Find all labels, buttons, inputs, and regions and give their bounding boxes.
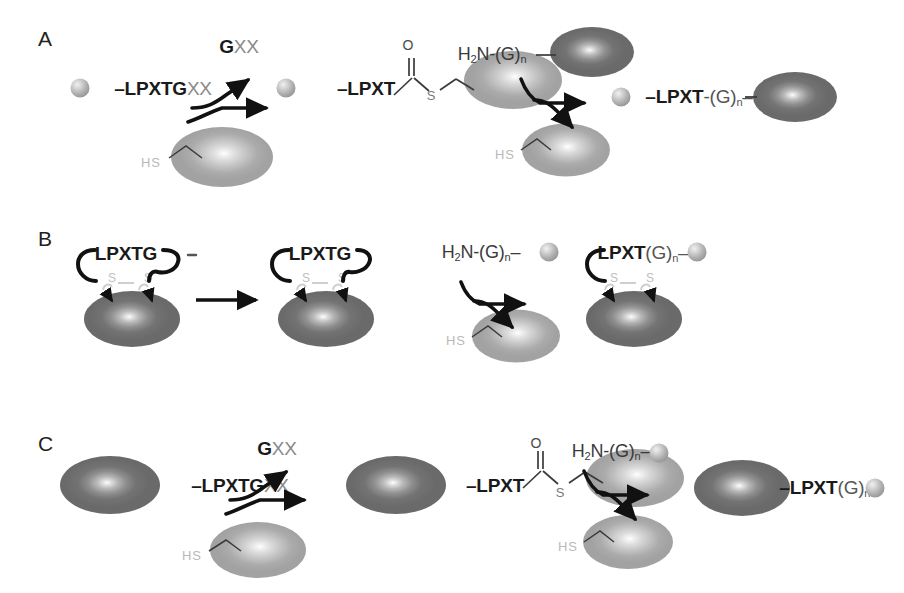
panel-b-label: B xyxy=(38,227,52,251)
panel-a-released-peptide-label: GXX xyxy=(219,37,259,56)
panel-a-substrate-sequence: –LPXTGXX xyxy=(114,79,212,98)
panel-a-substrate-sphere xyxy=(71,79,90,98)
panel-c-acyl-protein xyxy=(346,456,446,514)
panel-a-product-sphere xyxy=(612,88,631,107)
panel-a-thioester-sulfur-1: S xyxy=(427,89,436,102)
panel-a-acyl-sequence: –LPXT xyxy=(337,79,395,98)
panel-b-sortase-enzyme-3 xyxy=(472,310,560,363)
panel-b-product-sphere xyxy=(688,243,707,262)
panel-c-label: C xyxy=(38,432,53,456)
panel-c-nucleophile-sphere xyxy=(650,444,669,463)
panel-a-carbonyl-oxygen-1: O xyxy=(403,38,414,52)
panel-c-hs-label-2: HS xyxy=(558,540,578,553)
panel-b-disulfide-sulfur-left-1: S xyxy=(108,272,116,284)
panel-c-sortase-enzyme-2 xyxy=(583,515,673,569)
panel-a-sortase-enzyme-2 xyxy=(522,124,610,177)
panel-c-substrate-protein xyxy=(60,456,160,514)
panel-b-sortase-enzyme-1 xyxy=(84,291,180,347)
panel-a-hs-label-1: HS xyxy=(141,156,161,169)
panel-b-disulfide-sulfur-right-3: S xyxy=(646,272,654,284)
panel-b-disulfide-sulfur-right-1: S xyxy=(144,272,152,284)
panel-a-hs-label-2: HS xyxy=(495,148,515,161)
panel-c-product-protein xyxy=(694,460,790,516)
panel-c: C –LPXTGXX GXX HS –LPXT O S H2N-(G)n– HS… xyxy=(0,410,904,593)
panel-a-label: A xyxy=(38,27,52,51)
panel-c-released-peptide-label: GXX xyxy=(257,439,297,458)
panel-a-product-protein xyxy=(753,72,837,122)
panel-b-substrate-sequence: LPXTG xyxy=(95,244,157,263)
panel-b-sortase-enzyme-4 xyxy=(586,291,682,347)
panel-b: B LPXTG S S LPXTG S S H2N-(G)n– HS LPXT(… xyxy=(0,205,904,410)
panel-a-acyl-sphere xyxy=(277,79,296,98)
panel-b-nucleophile-label: H2N-(G)n– xyxy=(442,243,520,263)
panel-b-nucleophile-sphere xyxy=(540,243,559,262)
panel-c-substrate-sequence: –LPXTGXX xyxy=(191,476,289,495)
panel-c-hs-label-1: HS xyxy=(182,549,202,562)
sortase-reaction-figure: A –LPXTGXX GXX HS –LPXT O S H2N-(G)n HS … xyxy=(0,0,904,593)
panel-a: A –LPXTGXX GXX HS –LPXT O S H2N-(G)n HS … xyxy=(0,0,904,205)
panel-c-product-sphere xyxy=(866,479,885,498)
panel-b-intermediate-sequence: LPXTG xyxy=(289,244,351,263)
panel-c-nucleophile-label: H2N-(G)n– xyxy=(572,442,650,462)
panel-b-disulfide-sulfur-left-2: S xyxy=(302,272,310,284)
panel-a-nucleophile-label: H2N-(G)n xyxy=(458,45,527,65)
panel-b-hs-label: HS xyxy=(446,334,466,347)
panel-c-acyl-sequence: –LPXT xyxy=(466,476,524,495)
panel-a-incoming-protein xyxy=(550,27,634,77)
panel-b-sortase-enzyme-2 xyxy=(278,291,374,347)
panel-a-sortase-enzyme-1 xyxy=(171,127,273,187)
panel-b-disulfide-sulfur-right-2: S xyxy=(338,272,346,284)
panel-b-disulfide-sulfur-left-3: S xyxy=(610,272,618,284)
panel-c-thioester-sulfur: S xyxy=(556,486,565,499)
panel-a-product-sequence: –LPXT-(G)n– xyxy=(645,87,752,108)
panel-b-product-sequence: LPXT(G)n– xyxy=(598,243,689,264)
panel-c-sortase-enzyme-1 xyxy=(210,522,306,578)
panel-c-carbonyl-oxygen: O xyxy=(531,436,542,450)
